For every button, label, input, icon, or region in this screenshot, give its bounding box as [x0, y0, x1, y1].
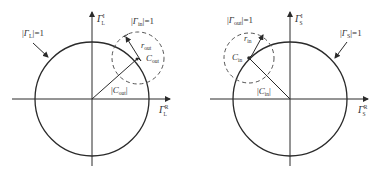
left-magnitude-label: |Cout| [111, 85, 128, 96]
left-center-label: Cout [146, 53, 160, 64]
left-unit-circle-label: |ΓL|=1 [22, 28, 44, 39]
left-center-point [136, 58, 139, 61]
left-dashed-circle-label: |Γin|=1 [131, 16, 154, 27]
right-center-point [247, 56, 251, 60]
right-imag-axis-label: ΓIS [294, 13, 303, 26]
left-diagram: |ΓL|=1 |Γin|=1 ΓIL ΓRL rout Cout |Cout| [12, 12, 170, 166]
right-center-label: Cin [232, 52, 243, 63]
right-radius-label: rin [244, 33, 252, 44]
right-unit-circle-label: |ΓS|=1 [340, 28, 362, 39]
right-real-axis-label: ΓRS [357, 104, 368, 117]
left-radius-arrow [126, 37, 141, 61]
right-diagram: |Γout|=1 |ΓS|=1 ΓIS ΓRS rin Cin |Cin| [210, 12, 368, 166]
left-radius-label: rout [141, 40, 152, 51]
left-real-axis-label: ΓRL [158, 104, 169, 117]
right-unit-label-pointer [335, 42, 347, 58]
left-imag-axis-label: ΓIL [96, 13, 106, 26]
stability-circles-figure: |ΓL|=1 |Γin|=1 ΓIL ΓRL rout Cout |Cout| [0, 0, 382, 174]
right-dashed-circle-label: |Γout|=1 [227, 15, 253, 26]
right-magnitude-label: |Cin| [257, 86, 271, 97]
left-unit-label-pointer [33, 43, 48, 57]
